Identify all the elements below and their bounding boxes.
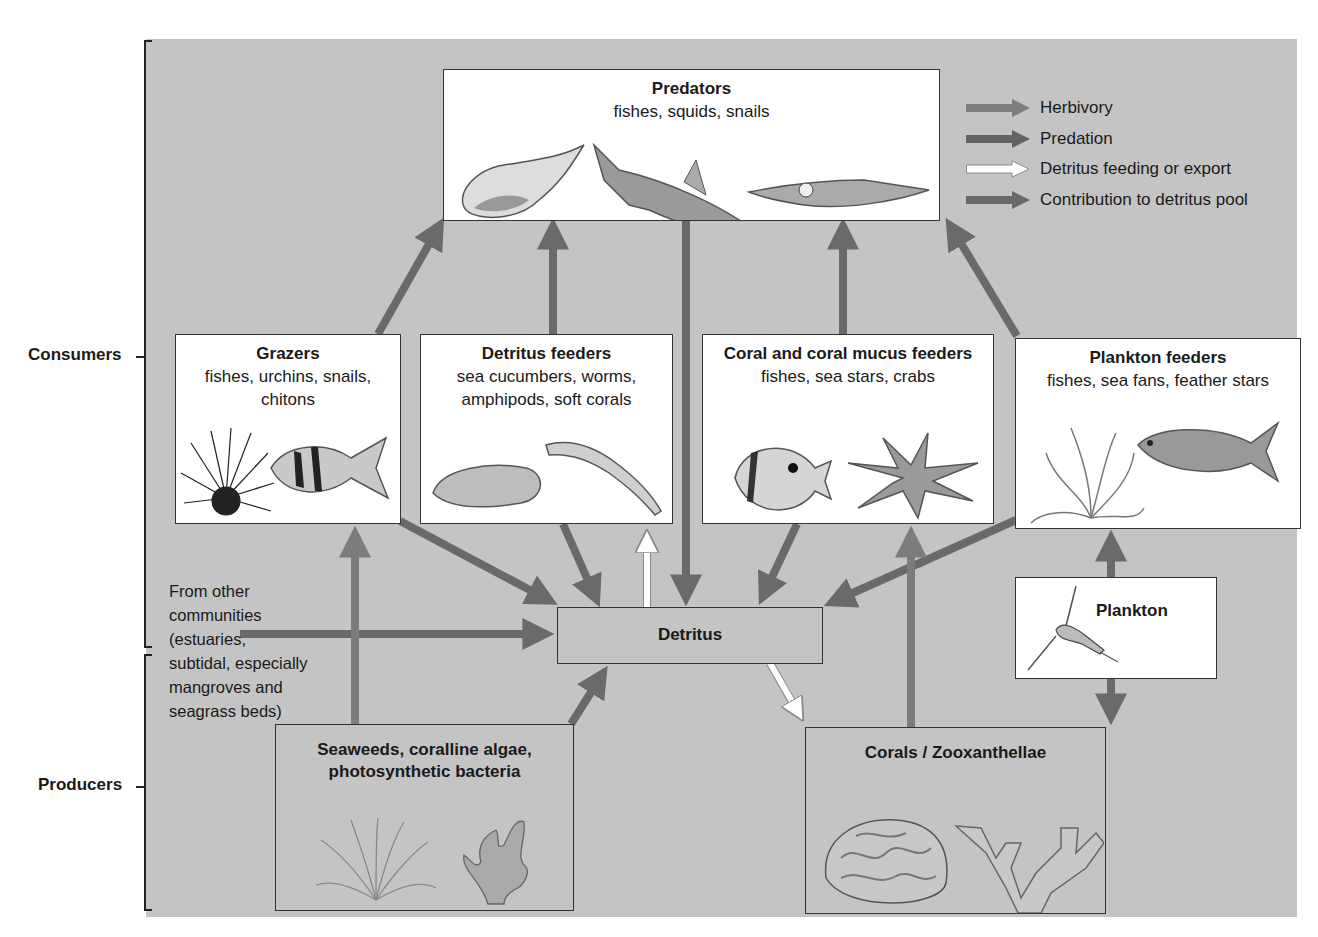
source-line: (estuaries, (169, 627, 349, 651)
sea-cucumber-icon (433, 465, 540, 506)
branching-coral-icon (956, 826, 1104, 913)
sea-urchin-icon (181, 428, 274, 515)
legend-label: Herbivory (1040, 98, 1113, 118)
legend-item-herbivory: Herbivory (966, 93, 1248, 124)
arrow-seaweeds-to-detritus (571, 678, 600, 724)
node-predators: Predators fishes, squids, snails (443, 69, 940, 221)
fish-icon (1138, 423, 1278, 481)
herbivory-arrow-icon (966, 99, 1030, 117)
arrow-planktonfeeders-to-predators (953, 230, 1017, 336)
source-line: seagrass beds) (169, 699, 349, 723)
legend: Herbivory Predation Detritus feeding or … (966, 93, 1248, 215)
node-title: Coral and coral mucus feeders (703, 343, 993, 365)
seaweed-tuft-icon (316, 818, 436, 900)
copepod-icon (1016, 578, 1126, 678)
snail-shell-icon (462, 145, 584, 217)
crown-of-thorns-starfish-icon (848, 433, 978, 518)
node-plankton: Plankton (1015, 577, 1217, 679)
contribution-arrow-icon (966, 191, 1030, 209)
node-title: Predators (444, 78, 939, 100)
coral-feeders-illustration (703, 423, 992, 523)
external-source-note: From other communities (estuaries, subti… (169, 579, 349, 723)
node-subtitle-line2: amphipods, soft corals (421, 388, 672, 411)
node-title: Grazers (176, 343, 400, 365)
seaweeds-illustration (276, 800, 572, 910)
node-detritus-feeders: Detritus feeders sea cucumbers, worms, a… (420, 334, 673, 524)
predators-illustration (444, 110, 938, 220)
arrow-coralfeeders-to-detritus (765, 524, 797, 592)
node-title-line2: photosynthetic bacteria (276, 761, 573, 783)
surgeonfish-icon (271, 438, 388, 498)
corals-illustration (806, 788, 1104, 913)
legend-item-detritus-feeding: Detritus feeding or export (966, 154, 1248, 185)
butterflyfish-icon (735, 448, 831, 510)
predation-arrow-icon (966, 130, 1030, 148)
node-seaweeds: Seaweeds, coralline algae, photosyntheti… (275, 724, 574, 911)
legend-label: Predation (1040, 129, 1113, 149)
plankton-feeders-illustration (1016, 413, 1299, 528)
node-title: Detritus feeders (421, 343, 672, 365)
node-detritus: Detritus (557, 607, 823, 664)
node-subtitle: fishes, sea fans, feather stars (1016, 369, 1300, 392)
legend-item-predation: Predation (966, 124, 1248, 155)
arrow-detritusfeeders-to-detritus (563, 524, 594, 594)
node-subtitle: fishes, sea stars, crabs (703, 365, 993, 388)
source-line: communities (169, 603, 349, 627)
node-subtitle-line1: sea cucumbers, worms, (421, 365, 672, 388)
source-line: subtidal, especially (169, 651, 349, 675)
source-line: From other (169, 579, 349, 603)
node-title-line1: Seaweeds, coralline algae, (276, 739, 573, 761)
arrow-grazers-to-predators (378, 230, 437, 334)
legend-label: Contribution to detritus pool (1040, 190, 1248, 210)
node-title: Corals / Zooxanthellae (806, 742, 1105, 764)
worm-icon (546, 443, 661, 515)
node-subtitle-line1: fishes, urchins, snails, (176, 365, 400, 388)
brain-coral-icon (826, 820, 947, 903)
detritus-feeding-arrow-icon (966, 160, 1030, 178)
node-coral-feeders: Coral and coral mucus feeders fishes, se… (702, 334, 994, 524)
node-grazers: Grazers fishes, urchins, snails, chitons (175, 334, 401, 524)
node-subtitle-line2: chitons (176, 388, 400, 411)
grazers-illustration (176, 423, 399, 523)
legend-item-detritus-contribution: Contribution to detritus pool (966, 185, 1248, 216)
arrow-planktonfeeders-to-detritus (837, 520, 1016, 600)
squid-icon (749, 180, 929, 207)
coralline-algae-icon (464, 821, 528, 904)
arrow-grazers-to-detritus (400, 521, 545, 598)
legend-label: Detritus feeding or export (1040, 159, 1231, 179)
node-title: Detritus (558, 624, 822, 646)
detritus-feeders-illustration (421, 423, 671, 523)
source-line: mangroves and (169, 675, 349, 699)
node-title: Plankton feeders (1016, 347, 1300, 369)
shark-icon (594, 145, 764, 220)
node-plankton-feeders: Plankton feeders fishes, sea fans, feath… (1015, 338, 1301, 529)
arrow-detritus-to-corals (770, 663, 798, 712)
node-corals: Corals / Zooxanthellae (805, 727, 1106, 914)
feather-star-icon (1031, 428, 1144, 523)
